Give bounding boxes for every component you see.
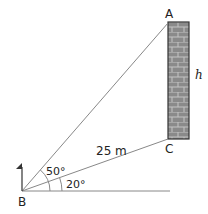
flag-icon	[16, 163, 22, 169]
point-label-B: B	[18, 196, 26, 208]
angle-label-20: 20°	[66, 179, 86, 190]
point-label-A: A	[165, 8, 173, 20]
line-BC	[22, 139, 168, 191]
point-label-C: C	[165, 143, 173, 155]
angle-label-50: 50°	[46, 166, 66, 177]
distance-label: 25 m	[96, 145, 127, 157]
height-label: h	[195, 69, 203, 81]
brick-wall	[168, 22, 189, 139]
line-BA	[22, 23, 168, 191]
diagram-canvas	[0, 0, 208, 214]
arc-20-degrees	[60, 178, 62, 191]
